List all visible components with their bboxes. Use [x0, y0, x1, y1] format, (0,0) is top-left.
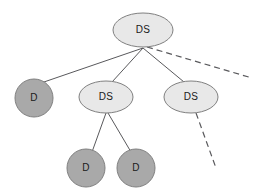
node-shape-d-child-left: [67, 149, 105, 187]
tree-node-ds-right[interactable]: DS: [164, 81, 218, 113]
node-shape-d-child-right: [117, 149, 155, 187]
tree-node-ds-middle[interactable]: DS: [79, 81, 133, 113]
tree-edge-root-to-ds-right: [143, 48, 184, 82]
nodes-layer: DSDDSDSDD: [15, 13, 218, 187]
edges-layer: [41, 47, 252, 168]
node-shape-d-left: [15, 79, 53, 117]
tree-node-d-child-left[interactable]: D: [67, 149, 105, 187]
node-shape-ds-right: [164, 81, 218, 113]
tree-node-d-child-right[interactable]: D: [117, 149, 155, 187]
node-shape-ds-middle: [79, 81, 133, 113]
tree-diagram: DSDDSDSDD: [0, 0, 263, 192]
tree-edge-ds-middle-to-d-right: [108, 113, 131, 152]
tree-node-d-left[interactable]: D: [15, 79, 53, 117]
tree-node-root[interactable]: DS: [113, 13, 173, 47]
node-shape-root: [113, 13, 173, 47]
tree-edge-root-continuation: [147, 47, 252, 78]
tree-diagram-canvas: DSDDSDSDD: [0, 0, 263, 192]
tree-edge-ds-middle-to-d-left: [92, 113, 106, 152]
tree-edge-ds-right-continuation: [196, 113, 216, 168]
